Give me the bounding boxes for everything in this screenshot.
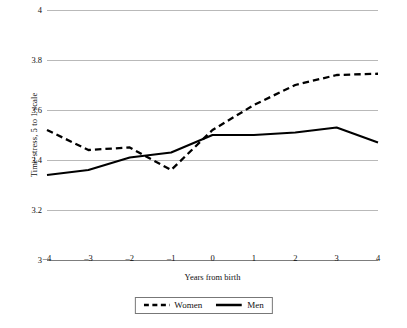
series-line-men: [47, 128, 378, 176]
line-chart: Time-stress, 5 to 1 scale 33.23.43.63.84…: [0, 0, 407, 328]
legend-label: Women: [174, 300, 202, 310]
y-axis-title: Time-stress, 5 to 1 scale: [29, 45, 39, 225]
x-tick-label: –2: [126, 253, 135, 263]
y-tick-label: 3: [38, 255, 42, 265]
x-tick-label: 3: [335, 253, 339, 263]
y-tick-label: 3.6: [31, 105, 42, 115]
x-tick-label: 4: [376, 253, 380, 263]
x-tick-label: –3: [84, 253, 93, 263]
series-lines: [47, 10, 378, 260]
x-tick-label: –1: [167, 253, 176, 263]
legend-item-women[interactable]: Women: [143, 300, 202, 310]
x-tick-label: 2: [293, 253, 297, 263]
y-tick-label: 3.4: [31, 155, 42, 165]
legend-swatch-solid: [216, 301, 242, 309]
legend-item-men[interactable]: Men: [216, 300, 264, 310]
y-tick-label: 3.2: [31, 205, 42, 215]
y-tick-label: 4: [38, 5, 42, 15]
x-tick-label: 1: [252, 253, 256, 263]
chart-legend: WomenMen: [134, 297, 272, 314]
legend-label: Men: [247, 300, 264, 310]
x-tick-label: 0: [210, 253, 214, 263]
plot-area: 33.23.43.63.84: [47, 10, 378, 260]
x-tick-label: –4: [43, 253, 52, 263]
series-line-women: [47, 74, 378, 170]
x-axis-title: Years from birth: [47, 272, 378, 282]
legend-swatch-dashed: [143, 301, 169, 309]
y-tick-label: 3.8: [31, 55, 42, 65]
